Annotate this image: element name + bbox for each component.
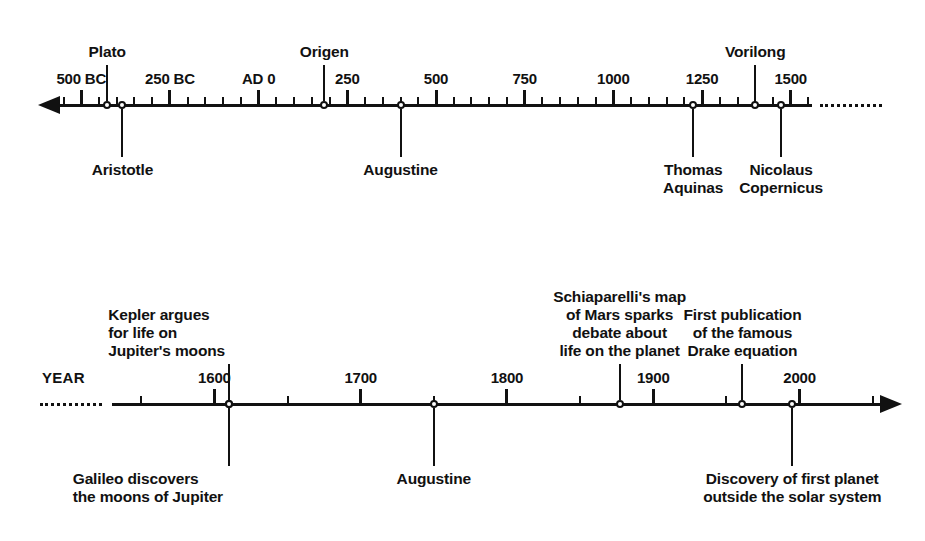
event-leader-line [791,408,793,466]
axis-tick-label: 1700 [344,369,377,386]
event-label-line: Discovery of first planet [703,470,881,488]
axis-tick-minor [872,396,874,403]
event-leader-line [228,408,230,466]
axis-tick-major [213,389,216,403]
event-label-line: outside the solar system [703,488,881,506]
event-label: Schiaparelli's mapof Mars sparksdebate a… [553,288,686,360]
event-label-line: Jupiter's moons [108,342,225,360]
event-label: First publicationof the famousDrake equa… [683,306,801,360]
event-label-line: the moons of Jupiter [73,488,223,506]
event-label: Kepler arguesfor life onJupiter's moons [108,306,225,360]
event-label: Discovery of first planetoutside the sol… [703,470,881,506]
axis-tick-label: 1800 [491,369,524,386]
axis-tick-minor [287,396,289,403]
timeline-renaissance-to-modern: 16001700180019002000YEARKepler arguesfor… [0,0,925,541]
axis-tick-major [652,389,655,403]
axis-continuation-dots-left [40,403,102,406]
event-label-line: Drake equation [683,342,801,360]
event-label-line: Galileo discovers [73,470,223,488]
event-label-line: Schiaparelli's map [553,288,686,306]
axis-tick-minor [725,396,727,403]
event-leader-line [619,364,621,400]
event-marker[interactable] [616,400,624,408]
event-marker[interactable] [225,400,233,408]
axis-tick-minor [579,396,581,403]
axis-tick-label: 1900 [637,369,670,386]
axis-tick-major [505,389,508,403]
axis-tick-label: 2000 [783,369,816,386]
event-leader-line [741,364,743,400]
event-marker[interactable] [788,400,796,408]
event-leader-line [228,364,230,400]
event-label: Galileo discoversthe moons of Jupiter [73,470,223,506]
axis-tick-minor [140,396,142,403]
event-label-line: of the famous [683,324,801,342]
event-label-line: of Mars sparks [553,306,686,324]
event-marker[interactable] [738,400,746,408]
event-label-line: First publication [683,306,801,324]
axis-arrow-right [880,395,902,413]
event-label-line: Kepler argues [108,306,225,324]
axis-tick-major [798,389,801,403]
axis-tick-major [359,389,362,403]
event-label-line: debate about [553,324,686,342]
event-marker[interactable] [430,400,438,408]
event-label-line: for life on [108,324,225,342]
axis-title: YEAR [42,369,85,386]
event-label-line: life on the planet [553,342,686,360]
event-label: Augustine [397,470,471,488]
timeline-diagram: 500 BC250 BCAD 0250500750100012501500Pla… [0,0,925,541]
event-leader-line [433,408,435,466]
event-label-line: Augustine [397,470,471,488]
axis-tick-label: 1600 [198,369,231,386]
